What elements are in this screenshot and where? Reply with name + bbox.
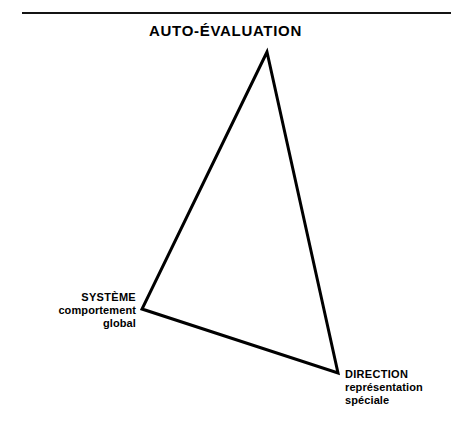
vertex-label-direction-sub1: représentation [345,381,423,394]
vertex-label-systeme-title: SYSTÈME [58,291,136,304]
vertex-label-systeme-sub2: global [58,317,136,330]
vertex-label-direction-title: DIRECTION [345,368,423,381]
vertex-label-systeme: SYSTÈME comportement global [58,291,136,330]
vertex-label-direction-sub2: spéciale [345,394,423,407]
triangle-shape [142,52,338,373]
figure-page: AUTO-ÉVALUATION SYSTÈME comportement glo… [0,0,451,438]
vertex-label-direction: DIRECTION représentation spéciale [345,368,423,407]
vertex-label-systeme-sub1: comportement [58,304,136,317]
